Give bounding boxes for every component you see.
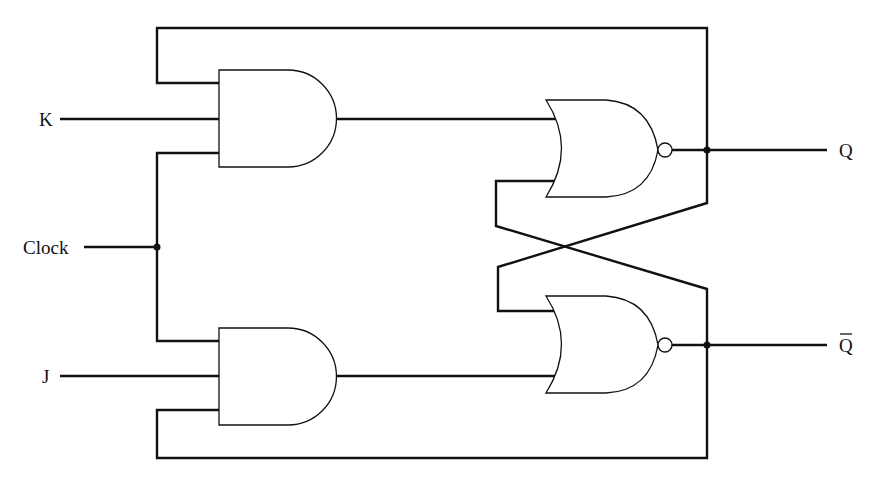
- qbar-junction-dot: [704, 342, 711, 349]
- clock-label: Clock: [23, 237, 69, 258]
- nor-gate-upper: [546, 100, 658, 197]
- and-gate-upper: [219, 70, 336, 167]
- and-gate-lower: [219, 328, 336, 425]
- q-label: Q: [839, 140, 853, 161]
- q-junction-dot: [704, 147, 711, 154]
- clock-junction-dot: [154, 244, 161, 251]
- k-label: K: [39, 109, 53, 130]
- nor-gate-lower: [546, 296, 658, 393]
- nor-lower-bubble: [658, 338, 672, 352]
- nor-upper-bubble: [658, 143, 672, 157]
- j-label: J: [42, 366, 49, 387]
- clock-bus-wire: [157, 153, 220, 341]
- qbar-label: Q: [839, 335, 853, 356]
- jk-flip-flop-diagram: K Clock J Q Q: [0, 0, 874, 481]
